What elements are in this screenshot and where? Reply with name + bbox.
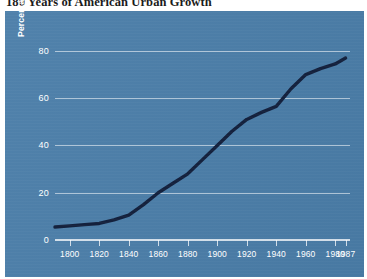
chart-panel: Percentage of Population Living in an Ur… <box>5 11 364 277</box>
x-tick-1800 <box>70 240 71 246</box>
y-tick-label-0: 0 <box>44 235 49 245</box>
x-tick-1860 <box>158 240 159 246</box>
y-tick-label-20: 20 <box>39 188 49 198</box>
x-tick-1880 <box>188 240 189 246</box>
x-tick-1900 <box>217 240 218 246</box>
x-tick-label-1940: 1940 <box>267 249 286 259</box>
x-tick-1820 <box>99 240 100 246</box>
x-tick-1960 <box>306 240 307 246</box>
x-tick-1987 <box>346 240 347 246</box>
x-tick-label-1900: 1900 <box>208 249 227 259</box>
plot-area: 020406080 180018201840186018801900192019… <box>55 32 350 240</box>
chart-figure: 180 Years of American Urban Growth Perce… <box>0 0 367 279</box>
x-tick-1840 <box>129 240 130 246</box>
x-tick-label-1920: 1920 <box>237 249 256 259</box>
x-tick-label-1840: 1840 <box>119 249 138 259</box>
x-tick-1940 <box>276 240 277 246</box>
x-tick-label-1860: 1860 <box>149 249 168 259</box>
x-tick-label-1987: 1987 <box>336 249 355 259</box>
x-tick-1920 <box>247 240 248 246</box>
series-line-chart <box>55 32 350 240</box>
urban-growth-line <box>55 58 346 227</box>
x-tick-label-1880: 1880 <box>178 249 197 259</box>
y-tick-label-80: 80 <box>39 46 49 56</box>
x-tick-label-1960: 1960 <box>296 249 315 259</box>
y-axis-title: Percentage of Population Living in an Ur… <box>16 0 26 37</box>
y-tick-label-40: 40 <box>39 140 49 150</box>
chart-title: 180 Years of American Urban Growth <box>6 0 346 9</box>
x-tick-label-1820: 1820 <box>90 249 109 259</box>
x-tick-1980 <box>335 240 336 246</box>
y-tick-label-60: 60 <box>39 93 49 103</box>
x-tick-label-1800: 1800 <box>60 249 79 259</box>
